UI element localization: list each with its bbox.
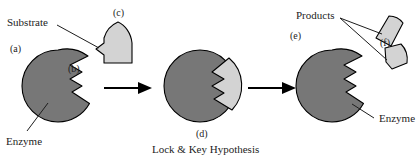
label-c: (c): [113, 8, 124, 18]
enzyme-shape-free: [22, 49, 90, 122]
label-substrate: Substrate: [7, 17, 48, 28]
arrow-2: [248, 82, 296, 94]
enzyme-lock-and-key-diagram: Substrate (a) (b) (c) Enzyme (d) Lock & …: [0, 0, 416, 160]
substrate-shape-free: [96, 22, 132, 63]
label-a: (a): [10, 44, 21, 54]
label-products: Products: [296, 10, 335, 21]
label-enzyme-right: Enzyme: [379, 113, 415, 124]
leader-line-substrate: [57, 25, 99, 48]
label-e: (e): [290, 31, 301, 41]
enzyme-shape-releasing: [296, 49, 364, 122]
label-b: (b): [68, 64, 80, 74]
arrow-1: [104, 82, 152, 94]
label-enzyme-left: Enzyme: [6, 136, 42, 147]
label-f: (f): [380, 38, 390, 48]
label-d: (d): [196, 129, 208, 139]
figure-caption: Lock & Key Hypothesis: [152, 144, 259, 155]
diagram-canvas: [0, 0, 416, 160]
leader-line-products-upper: [340, 18, 382, 34]
